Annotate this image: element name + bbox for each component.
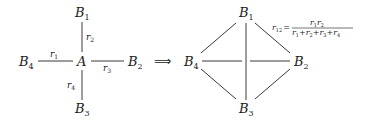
- node-b4: B4: [183, 54, 199, 71]
- label-r2: r2: [86, 32, 94, 43]
- star-network: A B1 B2 B3 B4 r1 r2 r3 r4: [18, 5, 143, 118]
- star-mesh-transform-diagram: A B1 B2 B3 B4 r1 r2 r3 r4 ⟹: [0, 0, 374, 124]
- formula-denominator: r1+r2+r3+r4: [292, 28, 340, 38]
- edge-b1-b4: [201, 23, 236, 53]
- node-b3: B3: [238, 101, 254, 118]
- mesh-network: B1 B2 B3 B4 r12= r1r2 r1+r2+r3+r4: [183, 5, 353, 118]
- node-b2: B2: [293, 54, 309, 71]
- implies-arrow: ⟹: [154, 54, 171, 68]
- label-r4: r4: [67, 80, 75, 91]
- formula-lhs: r12=: [272, 23, 290, 33]
- node-b4: B4: [18, 54, 34, 71]
- node-b1: B1: [238, 5, 254, 22]
- edge-b4-b3: [201, 69, 236, 99]
- node-b2: B2: [127, 54, 143, 71]
- label-r1: r1: [50, 49, 58, 60]
- edge-b2-b3: [255, 69, 290, 99]
- node-b3: B3: [74, 101, 90, 118]
- formula-numerator: r1r2: [310, 18, 324, 28]
- resistance-formula: r12= r1r2 r1+r2+r3+r4: [272, 18, 353, 38]
- label-r3: r3: [103, 63, 111, 74]
- node-b1: B1: [74, 5, 90, 22]
- node-a: A: [76, 54, 86, 69]
